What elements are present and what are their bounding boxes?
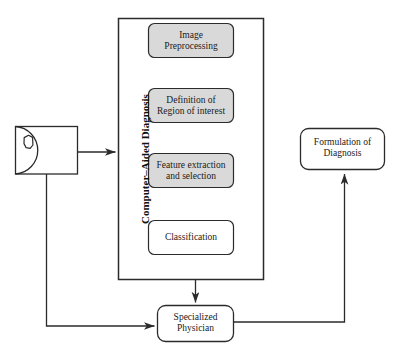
cad-container-label: Computer–Aided Diagnosis: [139, 94, 151, 224]
step-box-classification[interactable]: [149, 221, 234, 255]
imaging-device-node[interactable]: [16, 127, 78, 175]
imaging-device-body: [16, 127, 78, 175]
step-box-feature-extraction[interactable]: [149, 154, 234, 188]
step-box-image-preprocessing[interactable]: [149, 24, 234, 58]
node-box-specialized-physician[interactable]: [158, 306, 234, 342]
node-box-formulation-of-diagnosis[interactable]: [301, 129, 385, 170]
step-box-region-of-interest[interactable]: [149, 89, 234, 123]
imaging-device-subject-icon: [24, 135, 33, 148]
diagram-vector-layer: [0, 0, 396, 359]
diagram-canvas: Computer–Aided Diagnosis Image Preproces…: [0, 0, 396, 359]
